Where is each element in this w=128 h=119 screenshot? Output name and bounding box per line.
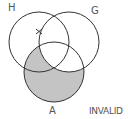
set-label-a: A	[49, 106, 56, 116]
shaded-region-a-minus-g	[0, 0, 128, 119]
verdict-label: INVALID	[89, 107, 123, 116]
set-label-h: H	[8, 3, 16, 13]
venn-diagram	[0, 0, 128, 119]
set-label-g: G	[91, 6, 99, 16]
